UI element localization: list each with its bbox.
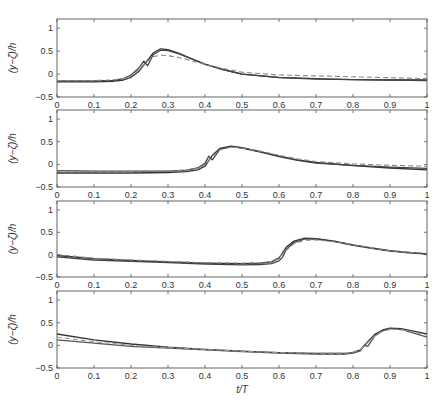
x-tick-label: 0.8 [347, 190, 360, 200]
y-tick-label: 1 [48, 205, 53, 215]
y-tick-label: −0.5 [35, 182, 53, 192]
x-tick-label: 0 [54, 371, 59, 381]
panel-4: 00.10.20.30.40.50.60.70.80.91−0.500.51(y… [7, 291, 430, 395]
y-tick-label: −0.5 [35, 272, 53, 282]
x-tick-label: 0.3 [162, 371, 175, 381]
x-tick-label: 0.3 [162, 190, 175, 200]
x-tick-label: 0.6 [273, 280, 286, 290]
axes-frame [57, 291, 427, 368]
series-line-solid-1 [57, 238, 427, 264]
x-tick-label: 0.1 [88, 100, 101, 110]
y-tick-label: 0.5 [40, 318, 53, 328]
y-axis-label: (y−ζ)/h [7, 133, 19, 164]
x-tick-label: 0.9 [384, 280, 397, 290]
x-tick-label: 1 [424, 371, 429, 381]
x-tick-label: 0.2 [125, 280, 138, 290]
series-line-dashed [57, 147, 427, 172]
y-tick-label: 0.5 [40, 227, 53, 237]
x-tick-label: 0.7 [310, 100, 323, 110]
x-tick-label: 0.8 [347, 100, 360, 110]
y-tick-label: 1 [48, 23, 53, 33]
axes-frame [57, 19, 427, 97]
y-tick-label: 0 [48, 69, 53, 79]
x-tick-label: 0.9 [384, 190, 397, 200]
x-tick-label: 0 [54, 280, 59, 290]
y-tick-label: 1 [48, 295, 53, 305]
axes-frame [57, 201, 427, 277]
x-tick-label: 0.3 [162, 100, 175, 110]
panel-2: 00.10.20.30.40.50.60.70.80.91−0.500.51(y… [7, 110, 430, 200]
series-line-dashed [57, 55, 427, 80]
x-tick-label: 0.5 [236, 371, 249, 381]
y-tick-label: 0 [48, 250, 53, 260]
y-tick-label: −0.5 [35, 363, 53, 373]
panel-1: 00.10.20.30.40.50.60.70.80.91−0.500.51(y… [7, 19, 430, 110]
x-tick-label: 0.7 [310, 280, 323, 290]
x-axis-label: t/T [236, 384, 249, 395]
x-tick-label: 0.6 [273, 190, 286, 200]
series-line-solid-2 [57, 50, 427, 81]
x-tick-label: 0.2 [125, 371, 138, 381]
x-tick-label: 0.2 [125, 100, 138, 110]
y-tick-label: −0.5 [35, 92, 53, 102]
x-tick-label: 0.9 [384, 371, 397, 381]
x-tick-label: 0.9 [384, 100, 397, 110]
x-tick-label: 0.6 [273, 371, 286, 381]
x-tick-label: 1 [424, 280, 429, 290]
x-tick-label: 0 [54, 100, 59, 110]
x-tick-label: 0.5 [236, 100, 249, 110]
x-tick-label: 0.8 [347, 371, 360, 381]
x-tick-label: 0.4 [199, 371, 212, 381]
series-line-solid-2 [57, 239, 427, 265]
x-tick-label: 0.1 [88, 190, 101, 200]
y-tick-label: 0.5 [40, 137, 53, 147]
x-tick-label: 0.4 [199, 280, 212, 290]
y-tick-label: 0 [48, 340, 53, 350]
x-tick-label: 0.5 [236, 190, 249, 200]
x-tick-label: 0.3 [162, 280, 175, 290]
x-tick-label: 0.7 [310, 371, 323, 381]
x-tick-label: 0.5 [236, 280, 249, 290]
x-tick-label: 0.1 [88, 280, 101, 290]
x-tick-label: 0.4 [199, 190, 212, 200]
y-axis-label: (y−ζ)/h [7, 314, 19, 345]
x-tick-label: 0 [54, 190, 59, 200]
y-axis-label: (y−ζ)/h [7, 223, 19, 254]
x-tick-label: 0.2 [125, 190, 138, 200]
x-tick-label: 0.6 [273, 100, 286, 110]
y-axis-label: (y−ζ)/h [7, 42, 19, 73]
x-tick-label: 0.4 [199, 100, 212, 110]
x-tick-label: 0.7 [310, 190, 323, 200]
panel-3: 00.10.20.30.40.50.60.70.80.91−0.500.51(y… [7, 201, 430, 290]
y-tick-label: 1 [48, 114, 53, 124]
x-tick-label: 1 [424, 100, 429, 110]
x-tick-label: 0.8 [347, 280, 360, 290]
figure: 00.10.20.30.40.50.60.70.80.91−0.500.51(y… [0, 0, 446, 406]
series-line-solid-1 [57, 146, 427, 173]
x-tick-label: 0.1 [88, 371, 101, 381]
y-tick-label: 0 [48, 159, 53, 169]
x-tick-label: 1 [424, 190, 429, 200]
y-tick-label: 0.5 [40, 46, 53, 56]
